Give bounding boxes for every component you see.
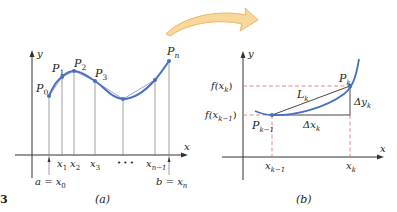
function-curve [255, 59, 359, 115]
figure-number-fragment: 3 [0, 193, 8, 206]
label-delta-y: Δyk [353, 96, 371, 110]
tick-x2: x2 [70, 158, 80, 172]
tick-x3: x3 [90, 158, 100, 172]
left-bound-label: a = x0 [35, 176, 66, 190]
tick-x1: x1 [57, 158, 67, 172]
label-lk: Lk [296, 88, 309, 103]
a-marker-arrow-icon [48, 157, 51, 162]
panel-b-caption: (b) [296, 193, 312, 206]
partition-points [47, 59, 171, 101]
tick-xn-minus-1: xn−1 [146, 158, 166, 172]
label-p2: P2 [73, 57, 86, 72]
label-pn: Pn [166, 45, 179, 60]
panel-b: y x f(xk) f(xk−1) Pk−1 Pk Lk Δxk Δyk xk−… [204, 48, 386, 206]
label-p1: P1 [51, 62, 64, 77]
point-pk-1 [270, 113, 274, 117]
x-axis-label: x [184, 141, 190, 152]
label-p0: P0 [35, 82, 48, 97]
figure-canvas: y x P0 P1 P2 [0, 0, 397, 212]
label-delta-x: Δxk [302, 119, 320, 133]
function-curve [49, 61, 169, 99]
right-bound-label: b = xn [156, 176, 188, 190]
tick-f-xk: f(xk) [210, 80, 233, 94]
x-axis-label: x [380, 143, 386, 154]
arc-length-figure: y x P0 P1 P2 [0, 0, 397, 212]
x-axis-arrow-icon [181, 153, 188, 158]
label-p3: P3 [94, 67, 107, 82]
tick-xk-1: xk−1 [265, 160, 285, 174]
label-pk: Pk [338, 72, 351, 87]
y-axis-label: y [36, 48, 43, 59]
panel-a-caption: (a) [95, 193, 110, 206]
label-pk-1: Pk−1 [251, 119, 274, 134]
y-axis-arrow-icon [30, 50, 35, 57]
tick-ellipsis: • • • [117, 159, 134, 167]
chord-lk [272, 86, 350, 115]
panel-a: y x P0 P1 P2 [15, 45, 190, 206]
y-axis-arrow-icon [241, 51, 246, 58]
transition-arrow-icon [166, 8, 258, 36]
y-axis-label: y [247, 48, 254, 59]
tick-f-xk-1: f(xk−1) [204, 109, 237, 123]
b-marker-arrow-icon [168, 157, 171, 162]
tick-xk: xk [346, 160, 356, 174]
x-axis-arrow-icon [377, 155, 384, 160]
